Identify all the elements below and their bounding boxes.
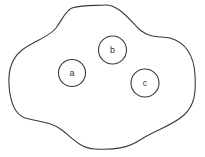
node-c-label: c (143, 78, 148, 88)
node-b: b (99, 36, 127, 64)
node-a: a (59, 60, 86, 87)
node-a-label: a (69, 68, 74, 78)
node-c: c (131, 69, 159, 97)
outer-region-blob (9, 5, 195, 149)
node-b-label: b (110, 45, 115, 55)
set-diagram: a b c (0, 0, 205, 157)
